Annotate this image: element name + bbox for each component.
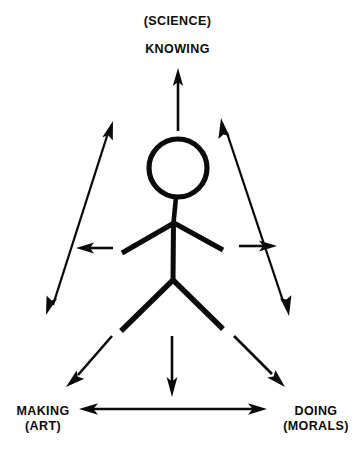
arrow-horizontal-making-doing — [79, 403, 267, 415]
arrow-down-left-making — [66, 336, 112, 387]
arrow-down-center — [167, 336, 178, 397]
label-making-art: MAKING (ART) — [8, 404, 78, 434]
figure-arm-right — [174, 223, 223, 250]
arrow-diagonal-upper-right — [218, 118, 291, 316]
label-knowing: KNOWING — [0, 42, 355, 57]
arrow-short-right — [239, 241, 277, 252]
figure-spine — [173, 222, 174, 282]
label-art-text: (ART) — [8, 419, 78, 434]
arrow-up-knowing — [173, 68, 183, 131]
arrow-diagonal-upper-left — [46, 121, 113, 315]
figure-neck — [174, 197, 177, 223]
label-doing-text: DOING — [280, 404, 352, 419]
label-science: (SCIENCE) — [0, 14, 355, 29]
diagram-canvas: (SCIENCE) KNOWING MAKING (ART) DOING (MO… — [0, 0, 355, 450]
arrow-short-left — [76, 243, 113, 254]
figure-arm-left — [122, 223, 174, 253]
arrow-down-right-doing — [234, 336, 285, 387]
figure-leg-left — [121, 280, 173, 331]
figure-head-icon — [149, 139, 207, 197]
label-making-text: MAKING — [8, 404, 78, 419]
stick-figure — [121, 139, 223, 331]
figure-leg-right — [173, 280, 223, 329]
label-morals-text: (MORALS) — [280, 419, 352, 434]
diagram-svg — [0, 0, 355, 450]
label-doing-morals: DOING (MORALS) — [280, 404, 352, 434]
